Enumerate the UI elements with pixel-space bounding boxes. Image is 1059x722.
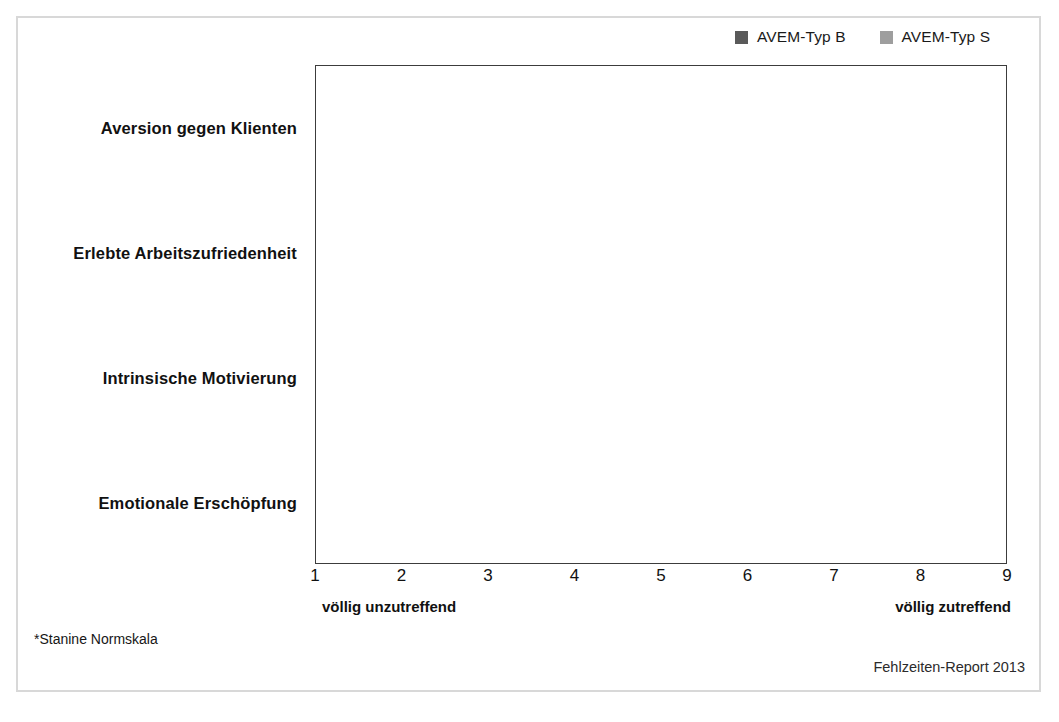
- value-axis-ticks: 123456789: [315, 566, 1007, 592]
- axis-tick-label: 2: [397, 566, 406, 586]
- legend-label-avem-typ-s: AVEM-Typ S: [902, 28, 991, 46]
- axis-tick-label: 5: [656, 566, 665, 586]
- axis-tick-label: 3: [483, 566, 492, 586]
- axis-tick-label: 7: [829, 566, 838, 586]
- axis-tick-label: 6: [743, 566, 752, 586]
- chart-page: AVEM-Typ B AVEM-Typ S Aversion gegen Kli…: [0, 0, 1059, 722]
- plot-border: [315, 65, 1007, 564]
- axis-tick-label: 4: [570, 566, 579, 586]
- chart-legend: AVEM-Typ B AVEM-Typ S: [735, 28, 990, 46]
- axis-anchor-left: völlig unzutreffend: [322, 598, 456, 615]
- axis-tick-label: 8: [916, 566, 925, 586]
- category-label: Emotionale Erschöpfung: [98, 494, 297, 513]
- legend-label-avem-typ-b: AVEM-Typ B: [757, 28, 846, 46]
- category-label: Aversion gegen Klienten: [101, 119, 297, 138]
- legend-square-icon: [880, 31, 893, 44]
- axis-anchor-right: völlig zutreffend: [895, 598, 1011, 615]
- plot-area: [315, 65, 1007, 564]
- source-attribution: Fehlzeiten-Report 2013: [873, 659, 1025, 675]
- legend-item-avem-typ-s: AVEM-Typ S: [880, 28, 991, 46]
- category-label: Intrinsische Motivierung: [103, 369, 297, 388]
- category-axis-labels: Aversion gegen KlientenErlebte Arbeitszu…: [0, 65, 305, 564]
- legend-item-avem-typ-b: AVEM-Typ B: [735, 28, 846, 46]
- category-label: Erlebte Arbeitszufriedenheit: [73, 244, 297, 263]
- footnote-text: *Stanine Normskala: [34, 631, 158, 647]
- axis-tick-label: 1: [310, 566, 319, 586]
- axis-tick-label: 9: [1002, 566, 1011, 586]
- legend-square-icon: [735, 31, 748, 44]
